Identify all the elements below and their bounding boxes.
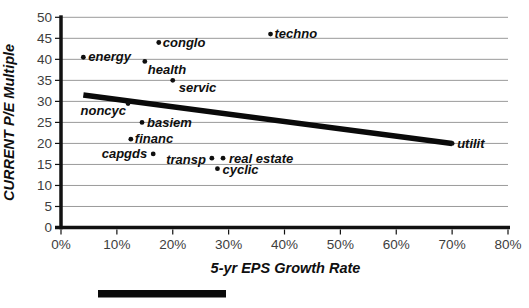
point-label-cyclic: cyclic (222, 162, 259, 177)
point-label-noncyc: noncyc (81, 103, 127, 118)
y-tick-label-35: 35 (37, 73, 52, 88)
y-tick-label-20: 20 (37, 136, 52, 151)
point-label-energy: energy (88, 49, 131, 64)
point-label-conglo: conglo (163, 35, 206, 50)
y-tick-label-0: 0 (44, 220, 52, 235)
point-label-capgds: capgds (102, 146, 148, 161)
x-tick-label-10: 10% (103, 237, 130, 252)
x-tick-label-0: 0% (51, 237, 71, 252)
x-tick-label-40: 40% (271, 237, 298, 252)
x-axis-title: 5-yr EPS Growth Rate (211, 260, 361, 276)
y-tick-label-30: 30 (37, 94, 52, 109)
data-point-basiem (140, 120, 145, 125)
pe-vs-growth-scatter-chart: 504540353025201510500%10%20%30%40%50%60%… (0, 0, 529, 308)
x-tick-label-70: 70% (439, 237, 466, 252)
point-label-servic: servic (179, 80, 217, 95)
data-point-real-estate (221, 156, 226, 161)
y-axis-title: CURRENT P/E Multiple (1, 44, 17, 201)
data-point-servic (170, 78, 175, 83)
y-tick-label-15: 15 (37, 157, 52, 172)
point-label-techno: techno (275, 26, 318, 41)
y-tick-label-5: 5 (44, 199, 52, 214)
data-point-cyclic (215, 166, 220, 171)
y-tick-label-10: 10 (37, 178, 52, 193)
data-point-techno (268, 32, 273, 37)
data-point-conglo (156, 40, 161, 45)
x-tick-label-60: 60% (383, 237, 410, 252)
data-point-noncyc (126, 101, 131, 106)
point-label-basiem: basiem (147, 115, 192, 130)
point-label-utilit: utilit (457, 136, 485, 151)
point-label-financ: financ (135, 131, 174, 146)
data-point-financ (128, 137, 133, 142)
y-tick-label-40: 40 (37, 52, 52, 67)
data-point-capgds (151, 152, 156, 157)
point-label-health: health (148, 62, 186, 77)
x-tick-label-80: 80% (494, 237, 521, 252)
y-tick-label-50: 50 (37, 10, 52, 25)
data-point-energy (81, 55, 86, 60)
chart-canvas: 504540353025201510500%10%20%30%40%50%60%… (0, 0, 529, 308)
data-point-transp (209, 156, 214, 161)
x-tick-label-50: 50% (327, 237, 354, 252)
legend-bar (98, 290, 226, 298)
y-tick-label-25: 25 (37, 115, 52, 130)
data-point-utilit (450, 141, 455, 146)
x-tick-label-20: 20% (159, 237, 186, 252)
point-label-transp: transp (166, 152, 206, 167)
y-tick-label-45: 45 (37, 31, 52, 46)
data-point-health (142, 59, 147, 64)
x-tick-label-30: 30% (215, 237, 242, 252)
